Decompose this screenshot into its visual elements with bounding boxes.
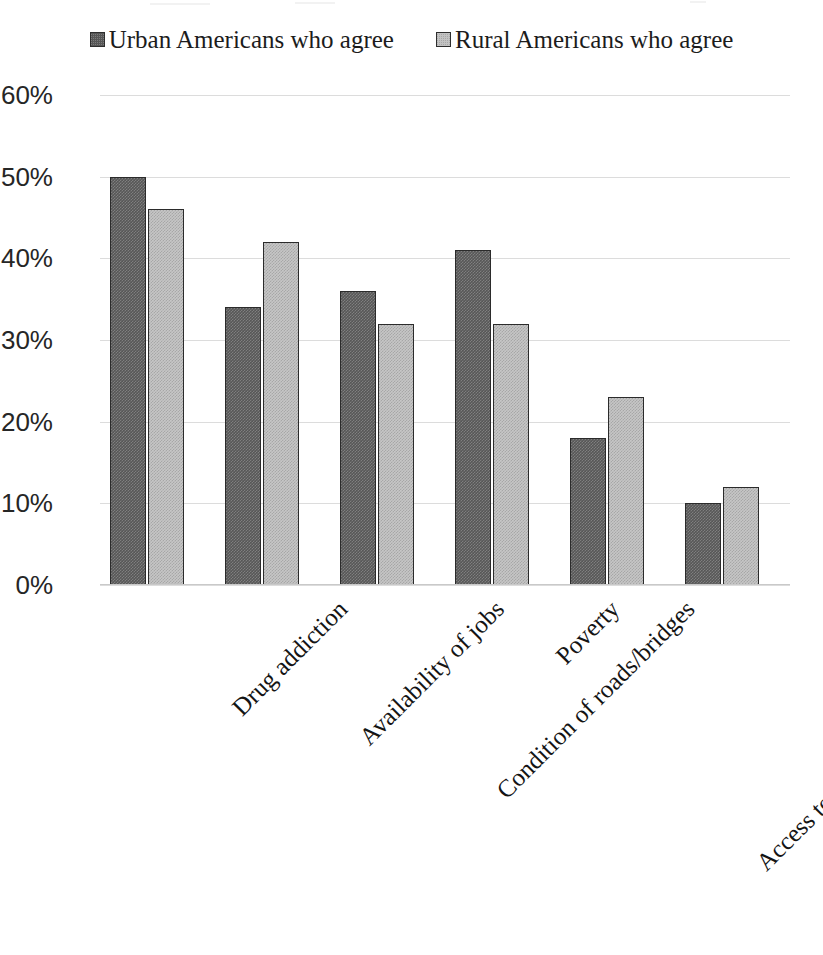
legend-entry-urban[interactable]: Urban Americans who agree [90,26,394,53]
rural-legend-swatch-icon [436,32,451,47]
bar-rural[interactable] [493,324,529,585]
bar-rural[interactable] [608,397,644,585]
category-label: Access to good doctors and hospitals [752,588,823,869]
bar-urban[interactable] [685,503,721,585]
category-label-text: Availability of jobs [353,595,508,750]
legend-label-urban: Urban Americans who agree [109,26,394,53]
bar-rural[interactable] [148,209,184,585]
y-axis-tick-label: 30% [0,327,53,353]
bar-group [215,95,330,585]
bar-group [675,95,790,585]
x-axis-baseline [100,584,790,585]
bar-urban[interactable] [110,177,146,585]
urban-legend-swatch-icon [90,32,105,47]
bars-layer [100,95,790,585]
bar-rural[interactable] [263,242,299,585]
chart-legend: Urban Americans who agree Rural American… [0,26,823,53]
bar-rural[interactable] [378,324,414,585]
legend-label-rural: Rural Americans who agree [455,26,733,53]
scan-artifact [295,2,335,4]
bar-urban[interactable] [570,438,606,585]
y-axis-tick-label: 10% [0,490,53,516]
bar-group [445,95,560,585]
category-label: Poverty [551,588,625,662]
legend-entry-rural[interactable]: Rural Americans who agree [436,26,733,53]
bar-urban[interactable] [455,250,491,585]
category-label: Drug addiction [228,588,354,714]
bar-chart: Urban Americans who agree Rural American… [0,0,823,955]
bar-urban[interactable] [340,291,376,585]
y-axis-tick-label: 50% [0,164,53,190]
category-label: Availability of jobs [355,588,510,743]
y-axis-tick-label: 60% [0,82,53,108]
bar-urban[interactable] [225,307,261,585]
y-axis-tick-label: 0% [0,572,53,598]
scan-artifact [690,1,706,3]
bar-group [330,95,445,585]
category-label-text: Drug addiction [226,595,352,721]
y-axis-tick-label: 20% [0,409,53,435]
plot-area: 0%10%20%30%40%50%60% [100,95,790,585]
bar-rural[interactable] [723,487,759,585]
gridline [100,585,790,586]
y-axis-tick-label: 40% [0,245,53,271]
bar-group [560,95,675,585]
bar-group [100,95,215,585]
category-label-text: Access to good doctors and hospitals [750,595,823,876]
scan-artifact [150,3,210,5]
x-axis-category-labels: Drug addictionAvailability of jobsCondit… [100,588,790,918]
